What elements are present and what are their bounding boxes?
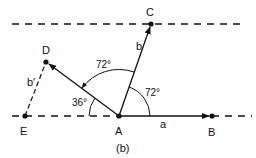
point-c xyxy=(148,21,153,26)
label-c: C xyxy=(146,6,154,18)
vector-b-prime xyxy=(25,62,46,116)
vector-diagram: C D E A B a b b′ 72° 72° 36° (b) xyxy=(0,0,256,158)
arc-angle-dac xyxy=(82,69,134,88)
vector-b xyxy=(119,27,150,116)
figure-caption: (b) xyxy=(116,142,129,154)
point-d xyxy=(43,59,48,64)
label-d: D xyxy=(42,44,50,56)
label-angle-cab: 72° xyxy=(145,87,160,98)
label-angle-dac: 72° xyxy=(96,59,111,70)
point-a xyxy=(116,113,121,118)
arc-angle-36 xyxy=(89,98,95,116)
label-vector-b: b xyxy=(136,40,142,52)
label-a: A xyxy=(115,125,123,137)
point-e xyxy=(22,113,27,118)
vector-ad xyxy=(49,64,119,116)
label-b: B xyxy=(208,126,215,138)
label-vector-a: a xyxy=(160,118,167,130)
label-vector-b-prime: b′ xyxy=(27,76,35,88)
label-angle-36: 36° xyxy=(72,97,87,108)
point-b xyxy=(209,113,214,118)
label-e: E xyxy=(20,125,27,137)
